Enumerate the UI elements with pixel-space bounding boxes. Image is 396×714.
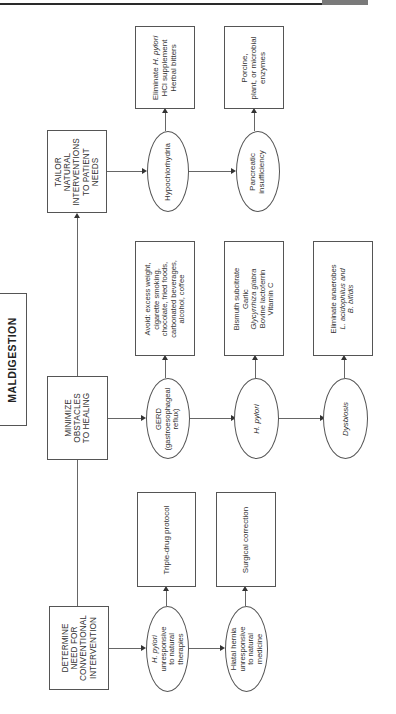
treatment-box-hypochlorhydria: Eliminate H. pylori HCl supplement Herba… <box>135 26 195 109</box>
arrow-minimize-to-gerd <box>108 418 142 419</box>
condition-gerd: GERD (gastroesophageal reflux) <box>146 378 190 459</box>
treatment-box-gerd: Avoid: excess weight, cigarette smoking,… <box>135 241 195 356</box>
arrow-up-hpylori <box>255 360 256 378</box>
step-label-tailor: TAILOR NATURAL INTERVENTIONS TO PATIENT … <box>54 138 100 206</box>
condition-h-pylori: H. pylori <box>234 378 279 459</box>
arrow-hypochlorhydria-to-pancreatic <box>189 171 232 172</box>
arrow-hpylori-to-dysbiosis <box>278 418 321 419</box>
top-rule-accent-bar <box>322 0 368 5</box>
step-box-determine: DETERMINE NEED FOR CONVENTIONAL INTERVEN… <box>49 606 109 690</box>
arrow-tailor-to-hypochlorhydria <box>107 171 143 172</box>
arrow-up-hypochlorhydria <box>165 113 166 131</box>
treatment-box-hpylori: Bismuth subcitrate Garlic Glycyrrhiza gl… <box>224 241 284 356</box>
treatment-box-triple-drug: Triple-drug protocol <box>137 492 196 587</box>
spine-connector-1 <box>77 218 78 376</box>
condition-hypochlorhydria: Hypochlorhydria <box>147 131 189 212</box>
diagram-title: MALDIGESTION <box>7 317 19 402</box>
condition-dysbiosis: Dysbiosis <box>323 378 368 459</box>
arrow-determine-to-hpylori-unresponsive <box>109 648 142 649</box>
treatment-box-dysbiosis: Eliminate anaerobes L. acidophilus and B… <box>313 241 373 356</box>
treatment-box-surgical: Surgical correction <box>216 492 276 587</box>
arrow-up-dysbiosis <box>344 360 345 378</box>
step-box-minimize: MINIMIZE OBSTACLES TO HEALING <box>47 376 108 460</box>
step-label-minimize: MINIMIZE OBSTACLES TO HEALING <box>64 393 92 443</box>
arrow-gerd-to-hpylori <box>189 418 232 419</box>
arrow-up-gerd <box>165 360 166 378</box>
top-rule <box>0 3 322 5</box>
title-box: MALDIGESTION <box>0 293 27 426</box>
condition-hiatal-hernia: Hiatal hernia unresponsive to natural me… <box>225 606 268 692</box>
condition-hpylori-unresponsive: H. pylori unresponsive to natural therap… <box>146 606 189 692</box>
step-label-determine: DETERMINE NEED FOR CONVENTIONAL INTERVEN… <box>61 615 98 681</box>
condition-pancreatic-insufficiency: Pancreatic insufficiency <box>236 131 280 212</box>
spine-connector-2 <box>77 460 78 606</box>
arrow-up-hiatal <box>245 591 246 606</box>
arrowhead-up-tailor <box>74 213 80 218</box>
arrow-hpylori-unresponsive-to-hiatal <box>188 648 221 649</box>
arrow-up-pancreatic <box>254 113 255 131</box>
step-box-tailor: TAILOR NATURAL INTERVENTIONS TO PATIENT … <box>47 130 107 213</box>
arrow-up-hpylori-unresponsive <box>166 591 167 606</box>
treatment-box-pancreatic: Porcine, plant, or microbial enzymes <box>224 26 284 109</box>
